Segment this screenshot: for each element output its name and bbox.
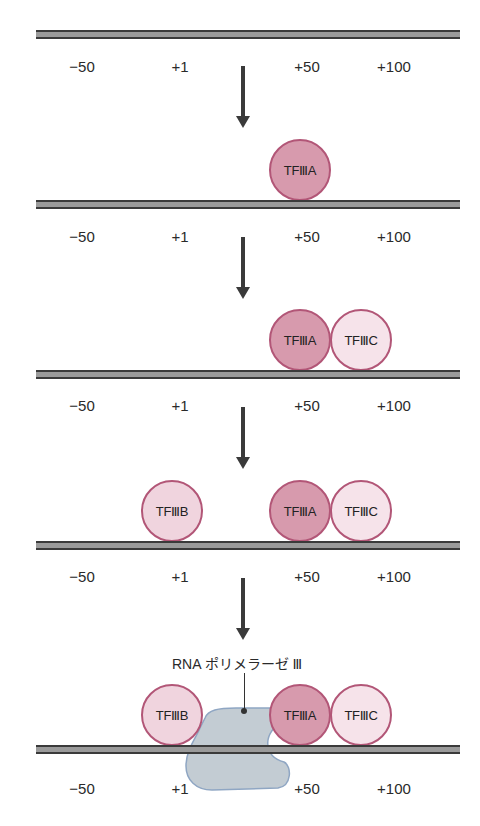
dna-strand-step5 xyxy=(36,745,460,754)
polymerase-leader-dot xyxy=(241,708,247,714)
position-label-plus1: +1 xyxy=(171,780,188,797)
tfiiic-circle: TFⅢC xyxy=(330,684,392,746)
position-label-plus100: +100 xyxy=(377,780,411,797)
tfiiia-circle: TFⅢA xyxy=(269,684,331,746)
position-label-minus50: −50 xyxy=(69,780,94,797)
polymerase-leader-line xyxy=(244,673,245,710)
tfiiib-circle: TFⅢB xyxy=(141,684,203,746)
rna-polymerase-iii-shape xyxy=(0,0,480,826)
position-label-plus50: +50 xyxy=(294,780,319,797)
